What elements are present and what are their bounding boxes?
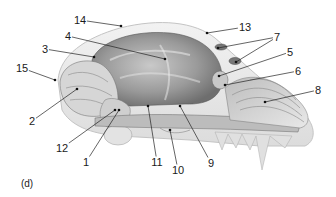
skull-illustration (0, 0, 336, 197)
callout-label-4: 4 (64, 31, 72, 42)
callout-label-13: 13 (238, 22, 252, 33)
callout-label-8: 8 (314, 85, 322, 96)
callout-label-12: 12 (55, 143, 69, 154)
leader-dot-7 (235, 61, 238, 64)
callout-label-5: 5 (286, 47, 294, 58)
leader-dot-2 (76, 88, 79, 91)
leader-dot-4 (164, 58, 167, 61)
callout-label-7: 7 (273, 32, 281, 43)
leader-dot-3 (93, 56, 96, 59)
teeth (215, 132, 292, 170)
callout-label-15: 15 (15, 63, 29, 74)
leader-dot-14 (120, 25, 123, 28)
callout-label-6: 6 (294, 66, 302, 77)
leader-dot-7 (217, 47, 220, 50)
panel-label: (d) (21, 178, 33, 189)
leader-dot-13 (206, 32, 209, 35)
leader-dot-9 (179, 105, 182, 108)
anatomy-figure: 141347351568212111109 (d) (0, 0, 336, 197)
callout-label-3: 3 (41, 44, 49, 55)
leader-dot-8 (264, 101, 267, 104)
leader-dot-10 (169, 129, 172, 132)
callout-label-9: 9 (207, 158, 215, 169)
leader-dot-11 (147, 105, 150, 108)
leader-dot-15 (54, 79, 57, 82)
callout-label-2: 2 (28, 116, 36, 127)
leader-dot-1 (118, 109, 121, 112)
leader-dot-6 (224, 84, 227, 87)
callout-label-11: 11 (150, 157, 163, 168)
callout-label-10: 10 (171, 165, 185, 176)
callout-label-1: 1 (82, 157, 90, 168)
leader-dot-12 (114, 109, 117, 112)
callout-label-14: 14 (73, 15, 87, 26)
leader-dot-5 (218, 75, 221, 78)
